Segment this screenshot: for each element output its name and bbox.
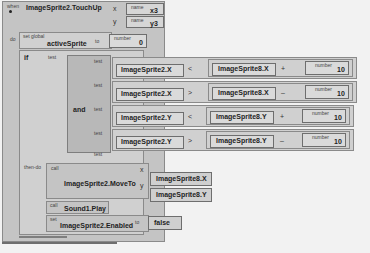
number-value: 0 — [139, 39, 143, 46]
empty-test-label: test — [94, 151, 102, 157]
cond-2-test: test — [94, 106, 102, 112]
false-value: false — [154, 219, 170, 226]
cond-3-left: ImageSprite2.Y — [121, 138, 172, 145]
if-keyword: if — [24, 54, 28, 61]
cond-1-left: ImageSprite2.X — [121, 90, 172, 97]
cond-1-number-label: number — [315, 86, 332, 92]
moveto-name: ImageSprite2.MoveTo — [64, 180, 136, 187]
cond-0-math-op: + — [281, 65, 285, 72]
cond-3-math-op: – — [280, 137, 284, 144]
event-name: ImageSprite2.TouchUp — [26, 4, 102, 11]
enabled-to-label: to — [135, 219, 139, 225]
moveto-x-value: ImageSprite8.X — [156, 175, 207, 182]
param-y-arrow: y — [113, 18, 117, 25]
param-y-label: name — [131, 17, 144, 23]
sound-play-name: Sound1.Play — [64, 205, 106, 212]
cond-3-number: 10 — [334, 138, 342, 145]
param-x-label: name — [131, 4, 144, 10]
cond-0-right: ImageSprite8.X — [218, 65, 269, 72]
cond-0-test: test — [94, 58, 102, 64]
to-label: to — [95, 38, 99, 44]
param-x-arrow: x — [113, 5, 117, 12]
moveto-y-value: ImageSprite8.Y — [156, 191, 207, 198]
cond-2-number-label: number — [312, 110, 329, 116]
when-keyword: when — [7, 3, 19, 9]
cond-2-left: ImageSprite2.Y — [121, 114, 172, 121]
do-label: do — [10, 36, 16, 42]
event-block-bottom — [2, 242, 117, 244]
cond-0-op: < — [188, 65, 192, 72]
param-x-value: x3 — [150, 7, 158, 14]
cond-0-number-label: number — [315, 62, 332, 68]
moveto-call-keyword: call — [51, 165, 59, 171]
global-variable-name: activeSprite — [47, 40, 87, 47]
cond-1-math-op: – — [281, 89, 285, 96]
cond-0-left: ImageSprite2.X — [121, 66, 172, 73]
sound-call-keyword: call — [50, 202, 58, 208]
number-label: number — [114, 35, 131, 41]
set-enabled-name: ImageSprite2.Enabled — [60, 222, 133, 229]
and-block[interactable] — [67, 55, 111, 153]
cond-2-op: < — [188, 113, 192, 120]
if-block-bottom — [19, 236, 67, 238]
moveto-x-label: x — [140, 166, 144, 173]
and-keyword: and — [73, 106, 85, 113]
cond-3-op: > — [188, 137, 192, 144]
cond-2-math-op: + — [280, 113, 284, 120]
cond-3-right: ImageSprite8.Y — [216, 137, 267, 144]
cond-2-right: ImageSprite8.Y — [216, 113, 267, 120]
cond-1-right: ImageSprite8.X — [218, 89, 269, 96]
if-test-label: test — [48, 54, 56, 60]
collapse-dot-icon[interactable] — [9, 10, 12, 13]
set-keyword: set — [50, 216, 57, 222]
set-global-keyword: set global — [23, 33, 44, 39]
cond-1-op: > — [188, 89, 192, 96]
cond-0-number: 10 — [337, 66, 345, 73]
cond-3-number-label: number — [312, 134, 329, 140]
cond-2-number: 10 — [334, 114, 342, 121]
param-y-value: y3 — [150, 20, 158, 27]
then-do-label: then-do — [24, 164, 41, 170]
cond-1-test: test — [94, 82, 102, 88]
cond-3-test: test — [94, 130, 102, 136]
moveto-y-label: y — [140, 182, 144, 189]
cond-1-number: 10 — [337, 90, 345, 97]
